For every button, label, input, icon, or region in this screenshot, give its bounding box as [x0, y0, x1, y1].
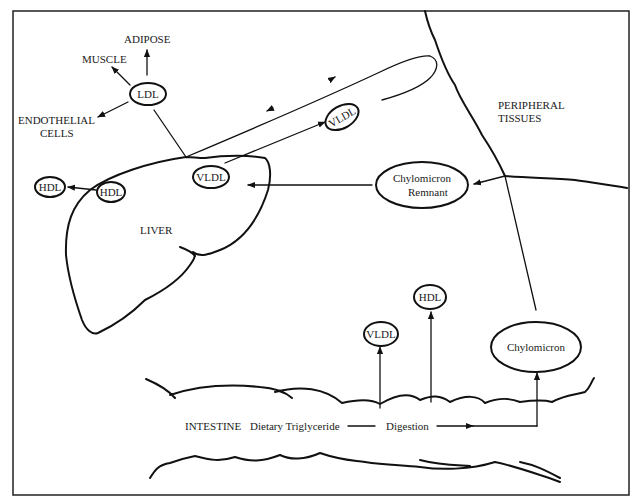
label-intestine: INTESTINE — [185, 420, 241, 432]
label-hdl-int: HDL — [419, 291, 442, 303]
label-adipose: ADIPOSE — [124, 33, 171, 45]
label-remnant-2: Remnant — [408, 186, 448, 198]
label-peripheral-2: TISSUES — [498, 112, 541, 124]
label-peripheral-1: PERIPHERAL — [498, 99, 565, 111]
peripheral-boundary-right — [505, 176, 627, 188]
peripheral-boundary — [425, 11, 505, 176]
label-endothelial-2: CELLS — [40, 127, 74, 139]
label-digestion: Digestion — [386, 420, 429, 432]
label-hdl-liver: HDL — [100, 186, 123, 198]
label-vldl-int: VLDL — [366, 328, 396, 340]
label-chylomicron: Chylomicron — [507, 341, 566, 353]
label-ldl: LDL — [137, 88, 159, 100]
label-liver: LIVER — [140, 224, 173, 236]
lipoprotein-diagram: LDL HDL HDL VLDL VLDL Chylomicron Remnan… — [0, 0, 642, 502]
liver-outline — [66, 156, 270, 334]
label-muscle: MUSCLE — [82, 53, 127, 65]
label-remnant-1: Chylomicron — [393, 172, 452, 184]
label-dietary: Dietary Triglyceride — [250, 420, 340, 432]
node-remnant — [376, 162, 468, 208]
label-vldl-liver: VLDL — [196, 171, 226, 183]
label-endothelial-1: ENDOTHELIAL — [18, 114, 95, 126]
vessel-loop — [186, 56, 437, 157]
label-hdl-out: HDL — [39, 181, 62, 193]
